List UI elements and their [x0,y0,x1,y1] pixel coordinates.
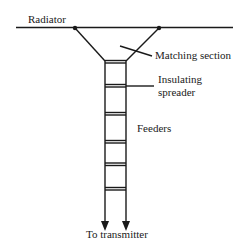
insulating-spreader-label-line1: Insulating [158,73,202,85]
insulating-spreader-label-line2: spreader [158,86,195,98]
matching-section-leader [120,46,152,56]
radiator-label: Radiator [28,13,66,25]
matching-section-label: Matching section [155,49,231,61]
diagram-graphics [0,0,244,243]
antenna-feed-diagram: Radiator Matching section Insulating spr… [0,0,244,243]
feeders-label: Feeders [137,122,171,134]
junction-dot-right [157,26,161,30]
insulating-spreaders [105,61,126,191]
matching-section-left [75,28,105,61]
junction-dot-left [73,26,77,30]
to-transmitter-label: To transmitter [86,228,148,240]
